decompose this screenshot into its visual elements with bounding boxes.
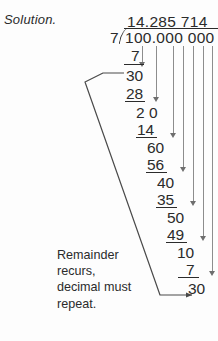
remainder-1: 30 bbox=[126, 68, 143, 84]
remainder-6: 10 bbox=[177, 245, 194, 261]
bringdown-arrow-5 bbox=[200, 236, 206, 241]
divisor-value: 7 bbox=[110, 30, 119, 46]
subtrahend-3: 14 bbox=[137, 122, 154, 138]
bringdown-line-4 bbox=[193, 46, 194, 202]
bringdown-arrow-2 bbox=[170, 133, 176, 138]
remainder-2: 2 0 bbox=[136, 105, 158, 121]
remainder-5: 50 bbox=[167, 210, 184, 226]
remainder-7: 30 bbox=[188, 281, 205, 297]
solution-label: Solution. bbox=[4, 12, 56, 27]
bringdown-line-0 bbox=[142, 46, 143, 63]
subtrahend-1: 7 bbox=[131, 48, 140, 64]
dividend-value: 100.000 000 bbox=[125, 30, 215, 46]
subtraction-rule-2 bbox=[125, 101, 145, 102]
subtrahend-4: 56 bbox=[147, 157, 164, 173]
subtraction-rule-1 bbox=[124, 64, 144, 65]
recurrence-note: Remainder recurs, decimal must repeat. bbox=[57, 247, 131, 312]
bringdown-arrow-6 bbox=[209, 271, 215, 276]
subtrahend-5: 35 bbox=[157, 192, 174, 208]
subtrahend-6: 49 bbox=[167, 227, 184, 243]
remainder-4: 40 bbox=[157, 175, 174, 191]
bringdown-arrow-4 bbox=[190, 201, 196, 206]
bringdown-line-6 bbox=[212, 46, 213, 272]
bringdown-arrow-1 bbox=[153, 97, 159, 102]
remainder-3: 60 bbox=[147, 140, 164, 156]
subtrahend-2: 28 bbox=[126, 86, 143, 102]
bringdown-line-3 bbox=[183, 46, 184, 168]
subtrahend-7: 7 bbox=[186, 262, 195, 278]
long-division-figure: Solution. 14.285 714 7 100.000 000 7 30 … bbox=[0, 0, 218, 341]
bringdown-arrow-3 bbox=[180, 167, 186, 172]
bringdown-line-2 bbox=[173, 46, 174, 134]
subtraction-rule-7 bbox=[178, 277, 199, 278]
bringdown-line-1 bbox=[156, 46, 157, 98]
bringdown-line-5 bbox=[203, 46, 204, 237]
